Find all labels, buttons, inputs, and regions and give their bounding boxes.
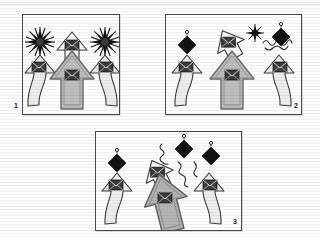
panel-1[interactable]	[22, 14, 120, 115]
arrow-right-wavy[interactable]	[194, 173, 224, 224]
scan-edge-line	[0, 4, 320, 5]
arrow-left-wavy[interactable]	[102, 173, 132, 224]
starburst-right	[90, 27, 119, 57]
arrow-center-big[interactable]	[210, 51, 254, 109]
diamond-right	[202, 141, 220, 165]
panel-1-label: 1	[14, 102, 18, 109]
squiggle-center	[160, 144, 168, 164]
arrow-right-wavy[interactable]	[90, 55, 119, 106]
diamond-left	[178, 30, 196, 54]
arrow-center-big[interactable]	[50, 51, 94, 109]
panel-2[interactable]	[165, 14, 302, 115]
panel-3-label: 3	[233, 218, 237, 225]
panel-1-graphics	[23, 15, 119, 114]
figure-canvas: 1	[0, 0, 320, 237]
arrow-left-wavy[interactable]	[172, 55, 202, 106]
arrow-left-wavy[interactable]	[25, 55, 55, 106]
arrow-right-wavy[interactable]	[264, 55, 294, 106]
diamond-center	[175, 134, 193, 158]
starburst-small	[246, 24, 264, 42]
panel-3-graphics	[96, 132, 241, 230]
squiggle-right	[178, 162, 197, 187]
starburst-left	[25, 27, 55, 57]
panel-2-graphics	[166, 15, 301, 114]
panel-3[interactable]	[95, 131, 242, 231]
panel-2-label: 2	[294, 102, 298, 109]
diamond-left	[108, 148, 126, 172]
